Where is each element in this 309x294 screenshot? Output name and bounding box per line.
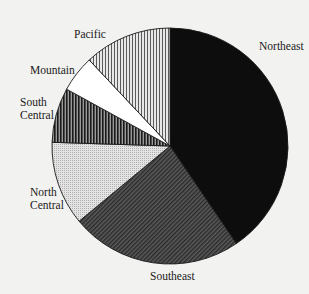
label-north-central: North Central bbox=[30, 186, 64, 211]
label-mountain: Mountain bbox=[30, 64, 75, 77]
label-northeast: Northeast bbox=[259, 40, 304, 53]
label-southeast: Southeast bbox=[150, 270, 195, 283]
label-pacific: Pacific bbox=[74, 28, 106, 41]
label-south-central: South Central bbox=[20, 96, 54, 121]
pie-chart: Northeast Southeast North Central South … bbox=[0, 0, 309, 294]
pie-slices bbox=[52, 28, 288, 264]
